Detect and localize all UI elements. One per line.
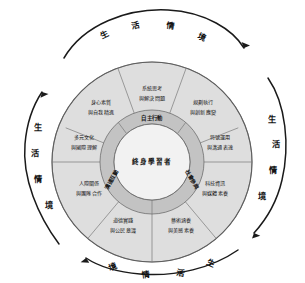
sector-c1-line1: 道德實踐	[113, 217, 134, 224]
context-arrow-right: 生 活 情 境	[250, 78, 285, 241]
context-left-char-1: 活	[31, 148, 39, 158]
sector-a3-line1: 規劃執行	[193, 99, 214, 106]
context-right-char-0: 生	[268, 114, 276, 124]
sector-b1-line2: 與溝通表達	[207, 144, 233, 151]
sector-a3-line2: 與創新應變	[190, 109, 216, 116]
context-top-char-2: 情	[166, 21, 176, 32]
sector-b3-line1: 藝術涵養	[171, 217, 192, 224]
context-arrow-right-path	[254, 78, 286, 233]
context-bottom-char-1: 活	[176, 267, 186, 278]
wheel-svg: 終身學習者 自主行動 溝通互動 社會參與 系統思考 與解決問題 身心素質 與自我…	[0, 0, 305, 283]
sector-b2-line2: 與媒體素養	[202, 190, 228, 197]
context-left-char-0: 生	[34, 122, 42, 132]
context-arrow-right-head	[250, 231, 260, 241]
context-top-char-1: 活	[130, 19, 140, 30]
sector-a1-line2: 與自我精進	[88, 109, 114, 116]
sector-b1-line1: 符號運用	[210, 134, 231, 141]
sector-c2-line1: 人際關係	[79, 180, 100, 187]
sector-b2-line1: 科技資訊	[205, 180, 226, 187]
context-right-char-1: 活	[272, 139, 280, 149]
sector-b3-line2: 與美感素養	[168, 227, 194, 234]
context-arrow-top-head	[239, 40, 250, 50]
sector-a1-line1: 身心素質	[91, 99, 112, 106]
core-label: 終身學習者	[132, 157, 172, 166]
sector-c3-line1: 多元文化	[74, 134, 95, 141]
context-bottom-char-0: 生	[206, 257, 217, 269]
sector-c1-line2: 與公民意識	[110, 227, 136, 234]
context-left-char-3: 境	[45, 200, 53, 210]
context-top-char-3: 境	[197, 31, 208, 43]
sector-c2-line2: 與團隊合作	[76, 190, 102, 197]
context-top-char-0: 生	[99, 28, 111, 41]
context-left-char-2: 情	[34, 174, 43, 184]
context-arrow-top: 生 活 情 境	[64, 10, 250, 58]
context-bottom-char-3: 境	[107, 261, 118, 273]
context-right-char-3: 境	[258, 191, 266, 201]
core-competency-wheel-diagram: 終身學習者 自主行動 溝通互動 社會參與 系統思考 與解決問題 身心素質 與自我…	[0, 0, 305, 283]
context-right-char-2: 情	[269, 165, 278, 175]
ring-label-autonomy: 自主行動	[141, 114, 163, 122]
sector-a2-line1: 系統思考	[142, 85, 163, 92]
sector-a2-line2: 與解決問題	[139, 95, 165, 102]
sector-c3-line2: 與國際理解	[71, 144, 97, 151]
context-arrow-top-path	[64, 10, 244, 58]
